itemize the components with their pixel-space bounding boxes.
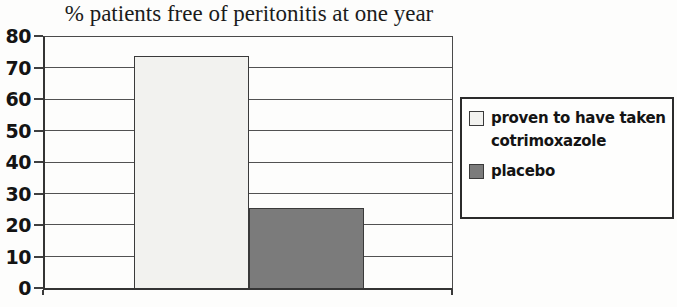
y-axis-tick-0 bbox=[34, 287, 43, 289]
x-axis-tick-right bbox=[451, 290, 453, 295]
peritonitis-bar-chart-figure: % patients free of peritonitis at one ye… bbox=[0, 0, 677, 307]
y-axis-tick-20 bbox=[34, 224, 43, 226]
x-axis-tick-left bbox=[42, 290, 44, 295]
gridline-40 bbox=[45, 162, 452, 163]
y-axis: 01020304050607080 bbox=[0, 36, 43, 288]
y-axis-label-60: 60 bbox=[6, 88, 31, 110]
gridline-50 bbox=[45, 130, 452, 131]
y-axis-label-80: 80 bbox=[6, 25, 31, 47]
y-axis-label-40: 40 bbox=[6, 151, 31, 173]
legend: proven to have taken cotrimoxazole place… bbox=[460, 97, 674, 219]
y-axis-label-30: 30 bbox=[6, 183, 31, 205]
gridline-70 bbox=[45, 67, 452, 68]
chart-title: % patients free of peritonitis at one ye… bbox=[43, 1, 455, 27]
y-axis-tick-40 bbox=[34, 161, 43, 163]
legend-item-cotrimoxazole: proven to have taken cotrimoxazole bbox=[469, 107, 669, 152]
y-axis-tick-50 bbox=[34, 130, 43, 132]
y-axis-tick-70 bbox=[34, 67, 43, 69]
legend-swatch-placebo-icon bbox=[469, 164, 484, 179]
legend-swatch-cotrimoxazole-icon bbox=[469, 111, 484, 126]
y-axis-tick-60 bbox=[34, 98, 43, 100]
y-axis-label-0: 0 bbox=[18, 277, 31, 299]
y-axis-label-20: 20 bbox=[6, 214, 31, 236]
y-axis-label-70: 70 bbox=[6, 57, 31, 79]
y-axis-tick-30 bbox=[34, 193, 43, 195]
y-axis-tick-80 bbox=[34, 35, 43, 37]
y-axis-tick-10 bbox=[34, 256, 43, 258]
y-axis-label-50: 50 bbox=[6, 120, 31, 142]
plot-area bbox=[43, 36, 453, 290]
bar-cotrimoxazole bbox=[134, 56, 249, 288]
y-axis-label-10: 10 bbox=[6, 246, 31, 268]
bar-placebo bbox=[249, 208, 364, 288]
legend-label-placebo: placebo bbox=[491, 160, 555, 183]
gridline-30 bbox=[45, 193, 452, 194]
legend-label-cotrimoxazole: proven to have taken cotrimoxazole bbox=[491, 107, 669, 152]
gridline-60 bbox=[45, 99, 452, 100]
legend-item-placebo: placebo bbox=[469, 160, 669, 183]
